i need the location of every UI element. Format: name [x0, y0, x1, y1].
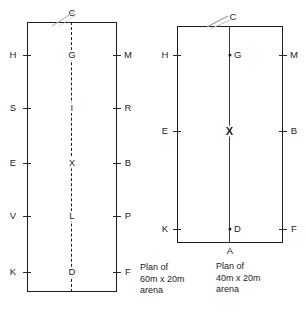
arena-40x20-tick-H — [173, 55, 181, 56]
arena-60x20-marker-B: B — [125, 158, 132, 168]
arena-40x20-tick-B — [279, 131, 287, 132]
arena-40x20-marker-G: G — [234, 50, 242, 60]
arena-40x20-caption: Plan of 40m x 20m arena — [216, 261, 261, 296]
arena-60x20-tick-E — [23, 163, 31, 164]
arena-40x20-marker-C: C — [229, 12, 236, 22]
arena-60x20-marker-L: L — [68, 211, 75, 221]
arena-60x20-caption: Plan of 60m x 20m arena — [140, 262, 185, 297]
arena-60x20-marker-R: R — [124, 103, 131, 113]
arena-60x20-tick-K — [23, 272, 31, 273]
arena-60x20-tick-V — [23, 216, 31, 217]
arena-60x20-marker-V: V — [10, 211, 17, 221]
arena-40x20-marker-X: X — [225, 126, 234, 137]
arena-60x20-marker-F: F — [125, 267, 131, 277]
arena-60x20-tick-M — [113, 55, 121, 56]
arena-60x20-marker-S: S — [10, 103, 17, 113]
arena-60x20-marker-K: K — [10, 267, 17, 277]
arena-40x20-marker-M: M — [290, 50, 298, 60]
arena-60x20-marker-G: G — [67, 50, 77, 60]
arena-60x20-marker-C: C — [68, 8, 75, 18]
arena-60x20-marker-H: H — [9, 50, 16, 60]
arena-40x20-marker-F: F — [291, 224, 297, 234]
arena-40x20-marker-H: H — [161, 50, 168, 60]
arena-60x20-marker-D: D — [67, 267, 76, 277]
arena-40x20-tick-M — [279, 55, 287, 56]
arena-60x20-tick-F — [113, 272, 121, 273]
arena-40x20-marker-E: E — [162, 126, 169, 136]
arena-40x20-marker-B: B — [291, 126, 298, 136]
arena-60x20-tick-P — [113, 216, 121, 217]
arena-60x20-marker-I: I — [70, 103, 75, 113]
arena-60x20-marker-E: E — [10, 158, 17, 168]
arena-60x20-tick-S — [23, 108, 31, 109]
arena-60x20-marker-P: P — [125, 211, 132, 221]
arena-60x20-marker-M: M — [124, 50, 132, 60]
arena-plans-figure: C H G M S I R E X B V L P K D — [0, 0, 306, 312]
arena-60x20-tick-B — [113, 163, 121, 164]
arena-40x20-tick-E — [173, 131, 181, 132]
arena-40x20-tick-K — [173, 229, 181, 230]
arena-40x20-marker-K: K — [162, 224, 169, 234]
arena-60x20-marker-X: X — [68, 158, 76, 169]
arena-60x20-tick-H — [23, 55, 31, 56]
arena-40x20-marker-D: D — [234, 224, 241, 234]
arena-60x20-tick-R — [113, 108, 121, 109]
arena-40x20-tick-F — [279, 229, 287, 230]
arena-40x20-marker-A: A — [227, 246, 234, 256]
